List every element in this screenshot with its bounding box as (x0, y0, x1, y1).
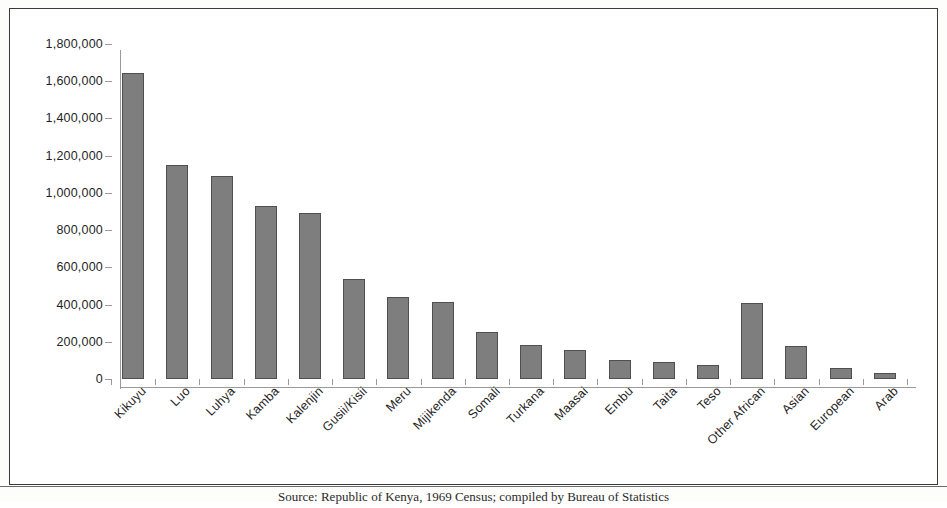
x-axis-category-label: Somali (465, 384, 503, 422)
bar (697, 365, 719, 379)
bar (343, 279, 365, 380)
x-axis-category-label: Teso (695, 384, 724, 413)
y-axis-labels: 1,800,0001,600,0001,400,0001,200,0001,00… (10, 9, 110, 508)
bar (653, 362, 675, 379)
bar (211, 176, 233, 379)
x-axis-category-label: Asian (780, 384, 813, 417)
bar (874, 373, 896, 380)
x-axis-category-label: Embu (602, 384, 636, 418)
x-axis-labels: KikuyuLuoLuhyaKambaKalenjinGusii/KisiiMe… (111, 384, 907, 484)
y-axis-tick-label: 1,400,000 (10, 111, 103, 125)
bar (564, 350, 586, 379)
bar (609, 360, 631, 379)
y-axis-tick-label: 1,600,000 (10, 74, 103, 88)
x-axis-category-label: Kamba (243, 384, 282, 423)
x-axis-category-label: Luo (168, 384, 193, 409)
y-axis-tick-label: 800,000 (10, 223, 103, 237)
bar (122, 73, 144, 379)
x-axis-category-label: Kalenjin (283, 384, 325, 426)
bar (741, 303, 763, 379)
bar (299, 213, 321, 379)
bar (520, 345, 542, 379)
bar-series (111, 44, 907, 379)
x-axis-category-label: Mijikenda (410, 384, 459, 433)
y-axis-tick-label: 400,000 (10, 298, 103, 312)
x-axis-category-label: Gusii/Kisii (320, 384, 370, 434)
bar (785, 346, 807, 380)
bar (476, 332, 498, 379)
bar (166, 165, 188, 379)
x-axis-tick (907, 379, 908, 385)
y-axis-tick-label: 200,000 (10, 335, 103, 349)
bar (432, 302, 454, 379)
figure-caption: Source: Republic of Kenya, 1969 Census; … (0, 489, 947, 505)
y-axis-tick-label: 1,200,000 (10, 149, 103, 163)
y-axis-tick-label: 600,000 (10, 260, 103, 274)
bar (830, 368, 852, 379)
bar (387, 297, 409, 379)
x-axis-category-label: Taita (650, 384, 679, 413)
x-axis-category-label: Luhya (203, 384, 238, 419)
figure-frame: 1,800,0001,600,0001,400,0001,200,0001,00… (9, 8, 938, 485)
x-axis-category-label: Kikuyu (112, 384, 149, 421)
y-axis-tick-label: 1,000,000 (10, 186, 103, 200)
x-axis-category-label: European (807, 384, 856, 433)
x-axis-category-label: Turkana (504, 384, 547, 427)
x-axis-category-label: Maasai (552, 384, 591, 423)
y-axis-tick-label: 0 (10, 372, 103, 386)
x-axis-category-label: Arab (872, 384, 901, 413)
caption-rule (0, 486, 947, 487)
y-axis-tick-label: 1,800,000 (10, 37, 103, 51)
bar (255, 206, 277, 379)
x-axis-category-label: Meru (384, 384, 415, 415)
